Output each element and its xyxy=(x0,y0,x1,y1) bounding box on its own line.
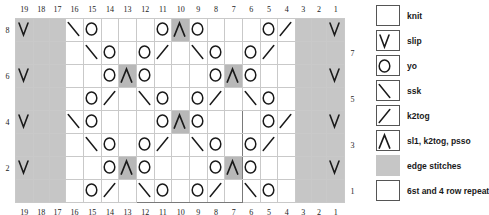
stitch-cell-yo[interactable] xyxy=(154,111,172,134)
stitch-cell-knit[interactable] xyxy=(278,134,296,157)
stitch-cell-edge[interactable] xyxy=(311,180,327,203)
stitch-cell-slip[interactable] xyxy=(15,157,33,180)
stitch-cell-psso[interactable] xyxy=(225,65,243,88)
stitch-cell-knit[interactable] xyxy=(278,65,296,88)
stitch-cell-ssk[interactable] xyxy=(83,134,101,157)
stitch-cell-k2tog[interactable] xyxy=(207,88,225,111)
stitch-cell-yo[interactable] xyxy=(83,180,101,203)
stitch-cell-edge[interactable] xyxy=(49,19,65,42)
stitch-cell-yo[interactable] xyxy=(154,180,172,203)
stitch-cell-yo[interactable] xyxy=(101,42,119,65)
stitch-cell-knit[interactable] xyxy=(119,134,137,157)
stitch-cell-yo[interactable] xyxy=(83,19,101,42)
stitch-cell-knit[interactable] xyxy=(101,19,119,42)
stitch-cell-knit[interactable] xyxy=(189,157,207,180)
stitch-cell-knit[interactable] xyxy=(66,157,84,180)
stitch-cell-knit[interactable] xyxy=(225,111,243,134)
stitch-cell-yo[interactable] xyxy=(207,42,225,65)
stitch-cell-edge[interactable] xyxy=(296,65,312,88)
stitch-cell-knit[interactable] xyxy=(260,157,278,180)
stitch-cell-psso[interactable] xyxy=(172,111,190,134)
stitch-cell-edge[interactable] xyxy=(327,42,345,65)
stitch-cell-yo[interactable] xyxy=(260,180,278,203)
stitch-cell-knit[interactable] xyxy=(207,19,225,42)
stitch-cell-edge[interactable] xyxy=(15,180,33,203)
stitch-cell-yo[interactable] xyxy=(242,42,260,65)
stitch-cell-psso[interactable] xyxy=(172,19,190,42)
stitch-cell-edge[interactable] xyxy=(33,65,49,88)
stitch-cell-slip[interactable] xyxy=(327,19,345,42)
stitch-cell-yo[interactable] xyxy=(83,111,101,134)
stitch-cell-knit[interactable] xyxy=(66,42,84,65)
stitch-cell-slip[interactable] xyxy=(327,65,345,88)
stitch-cell-knit[interactable] xyxy=(66,134,84,157)
stitch-cell-edge[interactable] xyxy=(49,180,65,203)
stitch-cell-k2tog[interactable] xyxy=(101,180,119,203)
stitch-cell-edge[interactable] xyxy=(15,42,33,65)
stitch-cell-k2tog[interactable] xyxy=(154,134,172,157)
stitch-cell-knit[interactable] xyxy=(242,19,260,42)
stitch-cell-ssk[interactable] xyxy=(136,88,154,111)
stitch-cell-edge[interactable] xyxy=(49,88,65,111)
stitch-cell-edge[interactable] xyxy=(311,134,327,157)
stitch-cell-k2tog[interactable] xyxy=(278,111,296,134)
stitch-cell-knit[interactable] xyxy=(119,88,137,111)
stitch-cell-yo[interactable] xyxy=(207,157,225,180)
stitch-cell-knit[interactable] xyxy=(83,65,101,88)
stitch-cell-knit[interactable] xyxy=(242,111,260,134)
stitch-cell-yo[interactable] xyxy=(207,134,225,157)
stitch-cell-knit[interactable] xyxy=(154,65,172,88)
stitch-cell-knit[interactable] xyxy=(172,157,190,180)
stitch-cell-edge[interactable] xyxy=(296,111,312,134)
stitch-cell-knit[interactable] xyxy=(119,111,137,134)
stitch-cell-knit[interactable] xyxy=(278,88,296,111)
stitch-cell-ssk[interactable] xyxy=(189,42,207,65)
stitch-cell-k2tog[interactable] xyxy=(154,42,172,65)
stitch-cell-knit[interactable] xyxy=(278,157,296,180)
stitch-cell-knit[interactable] xyxy=(154,157,172,180)
stitch-cell-edge[interactable] xyxy=(311,111,327,134)
stitch-cell-ssk[interactable] xyxy=(242,180,260,203)
stitch-cell-knit[interactable] xyxy=(278,42,296,65)
stitch-cell-yo[interactable] xyxy=(242,157,260,180)
stitch-cell-yo[interactable] xyxy=(242,134,260,157)
stitch-cell-edge[interactable] xyxy=(296,19,312,42)
stitch-cell-knit[interactable] xyxy=(136,19,154,42)
stitch-cell-knit[interactable] xyxy=(119,42,137,65)
stitch-cell-knit[interactable] xyxy=(225,19,243,42)
stitch-cell-yo[interactable] xyxy=(189,111,207,134)
stitch-cell-knit[interactable] xyxy=(172,180,190,203)
stitch-cell-yo[interactable] xyxy=(101,65,119,88)
stitch-cell-ssk[interactable] xyxy=(189,134,207,157)
stitch-cell-edge[interactable] xyxy=(33,180,49,203)
stitch-cell-psso[interactable] xyxy=(119,157,137,180)
stitch-cell-knit[interactable] xyxy=(189,65,207,88)
stitch-cell-edge[interactable] xyxy=(296,42,312,65)
stitch-cell-knit[interactable] xyxy=(172,42,190,65)
stitch-cell-k2tog[interactable] xyxy=(260,42,278,65)
stitch-cell-knit[interactable] xyxy=(83,157,101,180)
stitch-cell-yo[interactable] xyxy=(136,134,154,157)
stitch-cell-edge[interactable] xyxy=(311,42,327,65)
stitch-cell-yo[interactable] xyxy=(136,65,154,88)
stitch-cell-edge[interactable] xyxy=(311,157,327,180)
stitch-cell-k2tog[interactable] xyxy=(101,88,119,111)
stitch-cell-edge[interactable] xyxy=(33,88,49,111)
stitch-cell-slip[interactable] xyxy=(327,157,345,180)
stitch-cell-edge[interactable] xyxy=(49,65,65,88)
stitch-cell-ssk[interactable] xyxy=(83,42,101,65)
stitch-cell-yo[interactable] xyxy=(207,65,225,88)
stitch-cell-knit[interactable] xyxy=(207,111,225,134)
stitch-cell-yo[interactable] xyxy=(189,88,207,111)
stitch-cell-edge[interactable] xyxy=(296,157,312,180)
stitch-cell-edge[interactable] xyxy=(327,88,345,111)
stitch-cell-edge[interactable] xyxy=(33,111,49,134)
stitch-cell-slip[interactable] xyxy=(15,65,33,88)
stitch-cell-ssk[interactable] xyxy=(136,180,154,203)
stitch-cell-psso[interactable] xyxy=(225,157,243,180)
stitch-cell-edge[interactable] xyxy=(33,19,49,42)
stitch-cell-edge[interactable] xyxy=(327,180,345,203)
stitch-cell-knit[interactable] xyxy=(225,180,243,203)
stitch-cell-edge[interactable] xyxy=(327,134,345,157)
stitch-cell-yo[interactable] xyxy=(154,19,172,42)
